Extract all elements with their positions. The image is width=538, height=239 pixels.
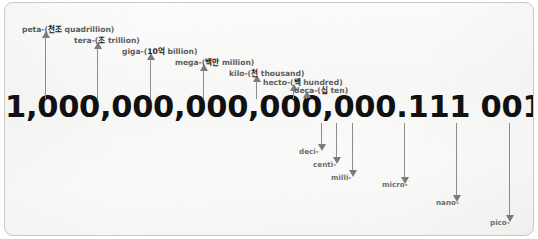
prefix-name: peta-( <box>22 25 48 34</box>
label-centi: centi- <box>313 160 336 169</box>
label-micro: micro- <box>382 180 408 189</box>
arrow-shaft <box>456 123 457 196</box>
arrow-shaft <box>150 59 151 99</box>
label-deca: deca-(십 ten) <box>294 84 348 95</box>
arrow-down-centi <box>332 123 341 164</box>
prefix-english: billion) <box>165 47 198 56</box>
arrow-down-nano <box>452 123 461 202</box>
arrow-shaft <box>97 48 98 99</box>
prefix-english: ten) <box>328 86 348 95</box>
label-deci: deci- <box>299 147 319 156</box>
prefix-korean: 십 <box>321 86 328 95</box>
label-giga: giga-(10억 billion) <box>122 45 197 56</box>
arrow-shaft <box>306 97 307 99</box>
arrow-shaft <box>404 123 405 178</box>
prefix-name: mega-( <box>175 58 205 67</box>
prefix-name: deca-( <box>294 86 321 95</box>
arrow-down-milli <box>348 123 357 177</box>
prefix-korean: 백만 <box>205 58 219 67</box>
prefix-name: giga-( <box>122 47 147 56</box>
prefix-name: hecto-( <box>263 78 294 87</box>
arrow-shaft <box>256 81 257 99</box>
arrow-shaft <box>336 123 337 158</box>
label-nano: nano- <box>436 198 459 207</box>
arrow-up-giga <box>146 53 155 99</box>
large-number-display: 1,000,000,000,000,000.111 001 001 001 <box>5 89 534 124</box>
arrow-up-tera <box>93 42 102 99</box>
arrow-shaft <box>203 70 204 99</box>
arrow-down-pico <box>505 123 514 222</box>
arrow-up-mega <box>199 64 208 99</box>
arrow-shaft <box>45 37 46 99</box>
label-milli: milli- <box>331 173 351 182</box>
prefix-english: million) <box>219 58 254 67</box>
label-tera: tera-(조 trillion) <box>74 34 140 45</box>
prefix-korean: 10억 <box>147 47 165 56</box>
arrow-shaft <box>321 123 322 145</box>
prefix-korean: 천조 <box>48 25 62 34</box>
arrow-shaft <box>352 123 353 171</box>
arrow-up-kilo <box>252 75 261 99</box>
prefix-name: tera-( <box>74 36 98 45</box>
arrow-up-peta <box>41 31 50 99</box>
arrow-down-micro <box>400 123 409 184</box>
prefix-english: quadrillion) <box>62 25 114 34</box>
label-pico: pico- <box>490 218 510 227</box>
arrow-shaft <box>509 123 510 216</box>
prefix-english: trillion) <box>105 36 140 45</box>
number-scale-diagram-card: 1,000,000,000,000,000.111 001 001 001 pe… <box>4 2 534 236</box>
prefix-name: kilo-( <box>229 69 251 78</box>
label-mega: mega-(백만 million) <box>175 56 254 67</box>
label-peta: peta-(천조 quadrillion) <box>22 23 114 34</box>
